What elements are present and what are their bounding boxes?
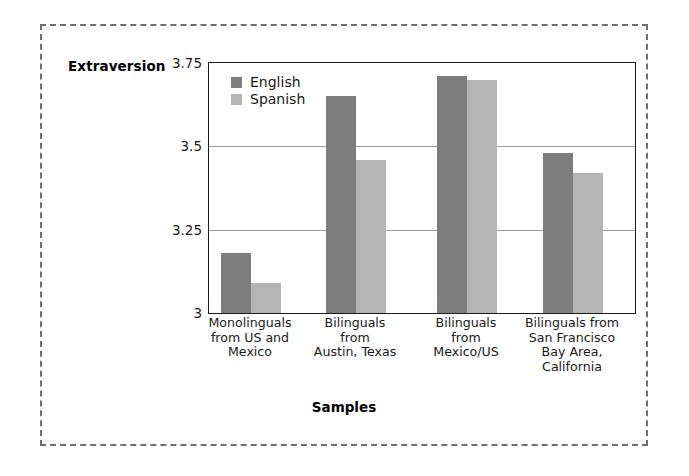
y-axis-title: Extraversion bbox=[68, 58, 166, 74]
x-category-label-line: Mexico/US bbox=[407, 345, 525, 360]
bar-spanish-3 bbox=[573, 173, 603, 313]
x-category-label-2: BilingualsfromMexico/US bbox=[407, 316, 525, 360]
gridline-3: 3 bbox=[209, 313, 635, 314]
bar-spanish-1 bbox=[356, 160, 386, 313]
bar-group bbox=[221, 63, 281, 313]
bar-spanish-2 bbox=[467, 80, 497, 313]
plot-area: 3.75 3.5 3.25 3 English Spanish bbox=[208, 62, 636, 314]
y-tick-label-3.5: 3.5 bbox=[181, 138, 202, 154]
x-axis-category-labels: Monolingualsfrom US andMexicoBilingualsf… bbox=[208, 316, 634, 388]
x-category-label-3: Bilinguals fromSan FranciscoBay Area,Cal… bbox=[513, 316, 631, 374]
bar-english-3 bbox=[543, 153, 573, 313]
bar-english-1 bbox=[326, 96, 356, 313]
x-category-label-line: Bilinguals bbox=[407, 316, 525, 331]
bar-english-0 bbox=[221, 253, 251, 313]
x-category-label-line: from bbox=[296, 331, 414, 346]
bars-layer bbox=[209, 63, 635, 313]
x-category-label-line: Bilinguals from bbox=[513, 316, 631, 331]
x-category-label-line: Mexico bbox=[191, 345, 309, 360]
x-category-label-line: Austin, Texas bbox=[296, 345, 414, 360]
y-tick-label-3.25: 3.25 bbox=[172, 222, 202, 238]
figure-dashed-frame: Extraversion 3.75 3.5 3.25 3 English Spa… bbox=[40, 24, 648, 446]
x-category-label-line: San Francisco bbox=[513, 331, 631, 346]
bar-spanish-0 bbox=[251, 283, 281, 313]
x-category-label-line: from US and bbox=[191, 331, 309, 346]
x-category-label-line: California bbox=[513, 360, 631, 375]
x-category-label-1: BilingualsfromAustin, Texas bbox=[296, 316, 414, 360]
x-category-label-line: from bbox=[407, 331, 525, 346]
x-category-label-line: Bilinguals bbox=[296, 316, 414, 331]
x-category-label-line: Monolinguals bbox=[191, 316, 309, 331]
bar-group bbox=[543, 63, 603, 313]
bar-english-2 bbox=[437, 76, 467, 313]
x-axis-title: Samples bbox=[42, 399, 646, 415]
x-category-label-line: Bay Area, bbox=[513, 345, 631, 360]
y-tick-label-3.75: 3.75 bbox=[172, 55, 202, 71]
bar-group bbox=[437, 63, 497, 313]
bar-group bbox=[326, 63, 386, 313]
x-category-label-0: Monolingualsfrom US andMexico bbox=[191, 316, 309, 360]
